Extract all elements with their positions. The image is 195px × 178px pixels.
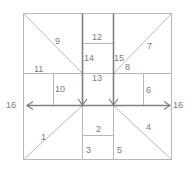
region-label-9: 9 [55, 36, 60, 46]
region-label-3: 3 [86, 145, 91, 155]
block-diagram: 1 2 3 4 5 6 7 8 9 10 11 12 13 14 15 16 1… [0, 0, 195, 178]
region-label-2: 2 [96, 124, 101, 134]
region-label-8: 8 [125, 62, 130, 72]
region-label-11: 11 [34, 64, 43, 74]
region-label-4: 4 [146, 122, 151, 132]
region-label-7: 7 [147, 41, 152, 51]
diagonal-bottom-left [24, 106, 83, 160]
region-label-12: 12 [92, 32, 102, 42]
region-label-10: 10 [55, 84, 65, 94]
diagonal-bottom-right [114, 106, 172, 160]
region-label-15: 15 [114, 53, 124, 63]
region-label-1: 1 [41, 132, 46, 142]
arrow-label-16-right: 16 [173, 100, 183, 110]
diagonal-top-right [114, 14, 172, 74]
region-label-6: 6 [146, 85, 151, 95]
diagonal-top-left [24, 14, 83, 74]
region-label-13: 13 [92, 73, 102, 83]
region-label-14: 14 [84, 53, 94, 63]
region-label-5: 5 [117, 145, 122, 155]
arrow-label-16-left: 16 [6, 100, 16, 110]
